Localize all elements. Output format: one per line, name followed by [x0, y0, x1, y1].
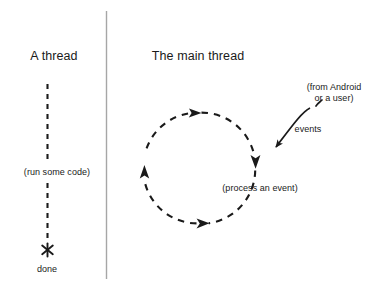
run-some-code-label: (run some code): [24, 167, 90, 177]
done-label: done: [37, 264, 57, 274]
event-loop-arrowheads: [140, 108, 261, 228]
right-panel-title: The main thread: [152, 49, 245, 63]
event-source-line-1: (from Android: [307, 82, 362, 92]
event-loop-circle: [144, 113, 255, 224]
process-an-event-label: (process an event): [222, 183, 297, 193]
diagram-canvas: A thread The main thread (run some code)…: [0, 0, 378, 292]
event-source-line-2: or a user): [314, 93, 353, 103]
events-label: events: [295, 124, 322, 134]
asterisk-marker-icon: [42, 244, 53, 257]
diagram-vector-layer: [0, 0, 378, 292]
left-panel-title: A thread: [30, 49, 77, 63]
